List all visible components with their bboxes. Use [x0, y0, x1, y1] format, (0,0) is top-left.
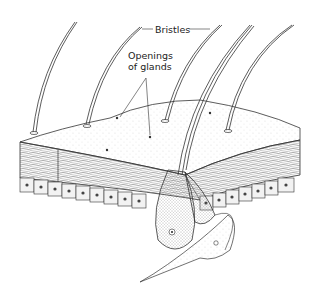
label-openings-of-glands: Openings of glands: [128, 50, 173, 72]
label-line: Openings: [128, 50, 173, 61]
skin-section-diagram: [0, 0, 313, 289]
label-line: of glands: [128, 61, 173, 72]
label-bristles: Bristles: [155, 24, 190, 35]
